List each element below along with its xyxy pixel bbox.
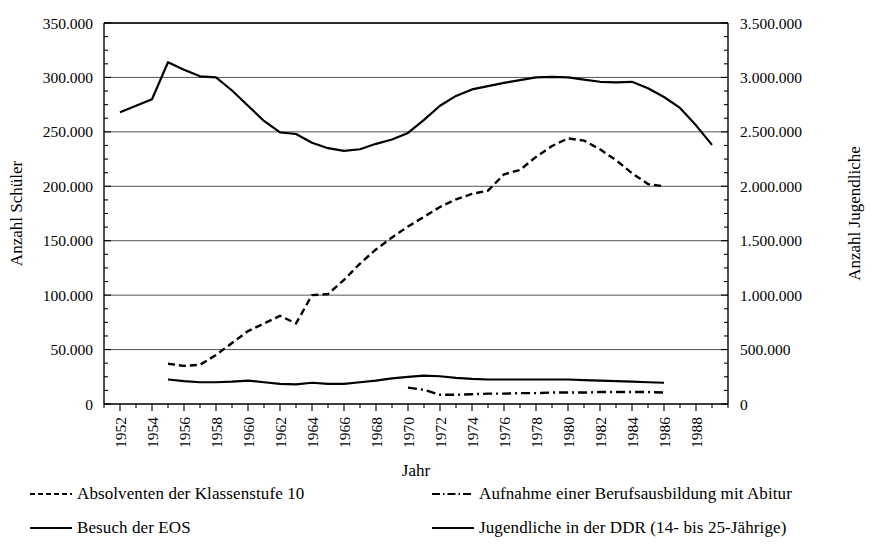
x-axis-tick-label: 1952 [112,417,129,448]
y-axis-right-tick-label: 0 [740,396,748,413]
legend-key-dashdot-icon [432,487,474,501]
x-axis-tick-label: 1966 [336,417,353,448]
y-axis-right-tick-label: 2.000.000 [740,178,802,195]
x-axis-title: Jahr [402,461,431,478]
y-axis-left-tick-label: 150.000 [43,232,94,249]
legend-label-eos: Besuch der EOS [77,518,191,538]
y-axis-left-tick-label: 350.000 [43,15,94,32]
legend-label-aufnahme: Aufnahme einer Berufsausbildung mit Abit… [479,484,792,504]
series-line-0 [168,138,664,366]
y-axis-right-tick-label: 3.000.000 [740,69,802,86]
legend-item-aufnahme: Aufnahme einer Berufsausbildung mit Abit… [432,484,792,504]
legend-key-solid-icon [30,521,72,535]
chart-canvas: 050.000100.000150.000200.000250.000300.0… [0,0,873,478]
x-axis-tick-label: 1954 [144,417,161,448]
legend-key-dashed-icon [30,487,72,501]
y-axis-left-tick-label: 300.000 [43,69,94,86]
line-chart: 050.000100.000150.000200.000250.000300.0… [0,0,873,478]
x-axis-tick-label: 1984 [624,417,641,448]
x-axis-tick-label: 1960 [240,417,257,448]
legend-item-jugendliche: Jugendliche in der DDR (14- bis 25-Jähri… [432,518,786,538]
x-axis-tick-label: 1988 [688,417,705,448]
y-axis-left-tick-label: 100.000 [43,287,94,304]
y-axis-right-title: Anzahl Jugendliche [845,146,864,281]
y-axis-right-tick-label: 3.500.000 [740,15,802,32]
y-axis-right-tick-label: 2.500.000 [740,123,802,140]
series-line-3 [120,62,712,151]
y-axis-right-tick-label: 1.500.000 [740,232,802,249]
legend-label-jugendliche: Jugendliche in der DDR (14- bis 25-Jähri… [479,518,786,538]
x-axis-tick-label: 1974 [464,417,481,448]
x-axis-tick-label: 1982 [592,417,609,448]
x-axis-tick-label: 1972 [432,417,449,448]
x-axis-tick-label: 1964 [304,417,321,448]
series-line-1 [408,388,664,395]
legend-item-absolventen: Absolventen der Klassenstufe 10 [30,484,304,504]
legend-item-eos: Besuch der EOS [30,518,191,538]
series-line-2 [168,376,664,385]
y-axis-right-tick-label: 1.000.000 [740,287,802,304]
y-axis-left-tick-label: 0 [85,396,93,413]
chart-page: 050.000100.000150.000200.000250.000300.0… [0,0,873,554]
x-axis-tick-label: 1978 [528,417,545,448]
y-axis-left-tick-label: 50.000 [50,341,93,358]
y-axis-left-tick-label: 250.000 [43,123,94,140]
x-axis-tick-label: 1968 [368,417,385,448]
legend-key-solid2-icon [432,521,474,535]
y-axis-left-title: Anzahl Schüler [7,161,26,267]
chart-legend: Absolventen der Klassenstufe 10 Aufnahme… [0,482,873,554]
y-axis-left-tick-label: 200.000 [43,178,94,195]
y-axis-right-tick-label: 500.000 [740,341,791,358]
x-axis-tick-label: 1976 [496,417,513,448]
legend-label-absolventen: Absolventen der Klassenstufe 10 [77,484,304,504]
x-axis-tick-label: 1986 [656,417,673,448]
x-axis-tick-label: 1958 [208,417,225,448]
x-axis-tick-label: 1980 [560,417,577,448]
x-axis-tick-label: 1956 [176,417,193,448]
x-axis-tick-label: 1962 [272,417,289,448]
x-axis-tick-label: 1970 [400,417,417,448]
